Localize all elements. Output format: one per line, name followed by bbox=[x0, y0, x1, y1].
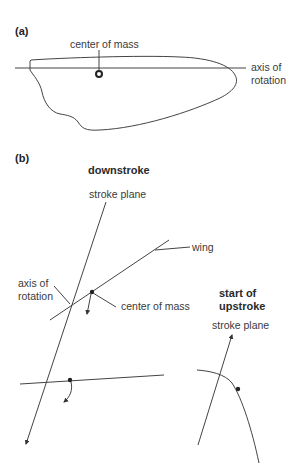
center-of-mass-label: center of mass bbox=[70, 38, 139, 50]
panel-b: (b) downstroke stroke plane wing axis of… bbox=[15, 152, 269, 463]
downstroke-center-of-mass-label: center of mass bbox=[121, 300, 190, 312]
panel-b-label: (b) bbox=[15, 152, 29, 164]
downstroke-lower-wing-line bbox=[20, 375, 164, 384]
wing-leader bbox=[155, 247, 190, 250]
downstroke-stroke-plane-line bbox=[26, 202, 106, 444]
axis-label-line1: axis of bbox=[251, 61, 281, 73]
upstroke-title-line1: start of bbox=[219, 287, 257, 299]
downstroke-stroke-plane-label: stroke plane bbox=[89, 188, 146, 200]
downstroke-com-motion-arrow bbox=[87, 294, 91, 314]
wing-label: wing bbox=[191, 241, 214, 253]
downstroke-title: downstroke bbox=[88, 164, 150, 176]
downstroke-axis-label-line2: rotation bbox=[18, 290, 53, 302]
wing-outline bbox=[30, 56, 237, 130]
lower-rotation-arrow bbox=[64, 382, 72, 402]
downstroke-axis-label-line1: axis of bbox=[18, 277, 48, 289]
panel-a-label: (a) bbox=[15, 25, 29, 37]
upstroke-title-line2: upstroke bbox=[219, 300, 265, 312]
center-of-mass-marker bbox=[96, 71, 102, 77]
upstroke-center-of-mass-dot bbox=[236, 387, 240, 391]
axis-label-line2: rotation bbox=[251, 74, 286, 86]
lower-center-of-mass-dot bbox=[68, 378, 72, 382]
upstroke-stroke-plane-line bbox=[198, 335, 232, 445]
wing-rotation-diagram: (a) center of mass axis of rotation (b) … bbox=[0, 0, 293, 469]
upstroke-stroke-plane-label: stroke plane bbox=[212, 319, 269, 331]
panel-a: (a) center of mass axis of rotation bbox=[15, 25, 286, 130]
downstroke-center-of-mass-leader bbox=[93, 293, 116, 307]
downstroke-axis-leader bbox=[54, 286, 70, 304]
